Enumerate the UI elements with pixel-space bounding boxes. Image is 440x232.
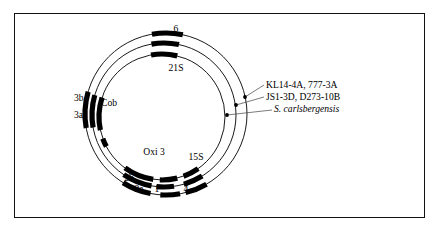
gene-label-gene-3b: 3b	[74, 92, 84, 103]
gene-label-gene-oxi3: Oxi 3	[143, 146, 165, 157]
gene-segment-in-21S	[151, 54, 177, 56]
gene-segment-mid-cob	[92, 95, 95, 127]
strain-label-strain-2: JS1-3D, D273-10B	[266, 91, 340, 102]
circle-outer	[85, 33, 247, 195]
gene-label-gene-21S: 21S	[169, 62, 184, 73]
gene-label-gene-1: 1	[155, 183, 160, 194]
leader-line-2	[236, 97, 264, 105]
strain-label-strain-1: KL14-4A, 777-3A	[266, 79, 337, 90]
strain-label-strain-3: S. carlsbergensis	[274, 103, 339, 114]
gene-segment-in-1	[160, 178, 177, 180]
gene-label-gene-15S: 15S	[189, 151, 204, 162]
gene-segment-in-3a	[103, 139, 107, 147]
gene-label-gene-2a: 2a	[134, 183, 144, 194]
segments-circle-middle	[92, 43, 202, 187]
gene-segment-outer-15S	[186, 184, 207, 192]
genome-map-figure: 621SCob3b3aOxi 315S2b2a14 KL14-4A, 777-3…	[0, 0, 440, 232]
anchor-dot-strain-3	[225, 113, 229, 117]
gene-label-gene-2b: 2b	[124, 172, 134, 183]
anchor-dot-strain-2	[234, 103, 238, 107]
leader-line-3	[227, 110, 272, 115]
genome-circles	[85, 33, 247, 195]
gene-label-gene-cob: Cob	[101, 97, 117, 108]
gene-segment-outer-cob	[85, 92, 88, 128]
anchor-dot-strain-1	[243, 95, 247, 99]
gene-label-gene-3a: 3a	[74, 109, 84, 120]
circle-middle	[92, 43, 236, 187]
gene-segment-mid-6	[151, 43, 178, 45]
circle-inner	[99, 54, 225, 180]
gene-label-gene-6: 6	[174, 23, 179, 34]
segments-circle-outer	[85, 33, 206, 195]
strain-labels: KL14-4A, 777-3AJS1-3D, D273-10BS. carlsb…	[266, 79, 340, 114]
gene-segment-in-15S	[184, 169, 199, 177]
leader-line-1	[245, 85, 264, 97]
gene-label-gene-4: 4	[184, 183, 189, 194]
gene-segment-outer-4	[160, 194, 180, 195]
